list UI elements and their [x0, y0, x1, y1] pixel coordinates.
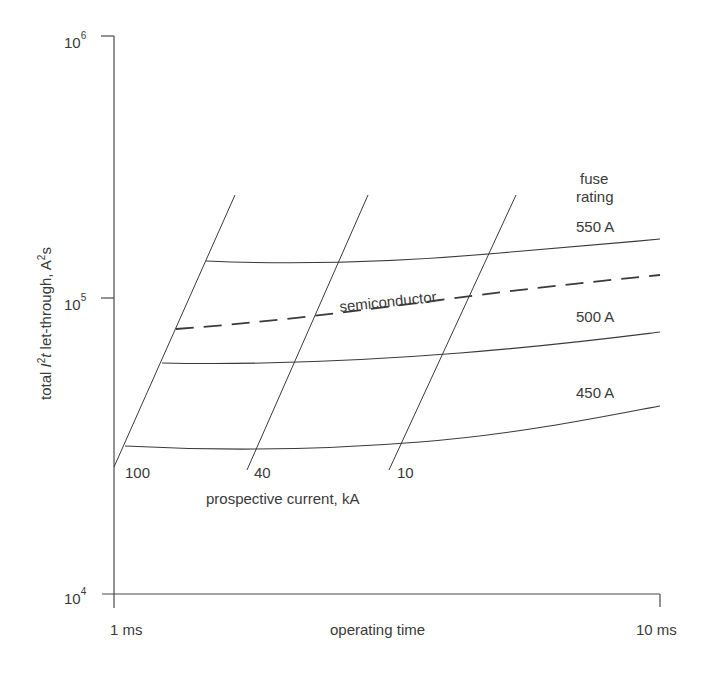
pc-label-10: 10 [397, 464, 414, 481]
label-500a: 500 A [576, 308, 614, 325]
pc-line-40 [247, 195, 368, 470]
pc-label-100: 100 [125, 464, 150, 481]
label-550a: 550 A [576, 218, 614, 235]
pc-title: prospective current, kA [206, 490, 359, 507]
curve-500a [162, 332, 660, 364]
curve-550a [206, 239, 660, 263]
fuse-i2t-chart: 106 105 104 total I2t let-through, A2s 1… [0, 0, 708, 674]
prospective-current-lines [114, 195, 516, 470]
y-axis-title: total I2t let-through, A2s [36, 247, 54, 400]
curve-450a [125, 406, 660, 449]
label-semiconductor: semiconductor [339, 288, 438, 315]
label-450a: 450 A [576, 384, 614, 401]
x-axis-title: operating time [330, 621, 425, 638]
y-tick-label-1e4: 104 [64, 586, 87, 607]
x-tick-label-10ms: 10 ms [636, 621, 677, 638]
legend-title-line1: fuse [580, 170, 608, 187]
legend-title-line2: rating [576, 188, 614, 205]
pc-line-10 [389, 195, 516, 470]
y-tick-label-1e6: 106 [64, 30, 87, 51]
pc-line-100 [114, 195, 235, 467]
fuse-curves [125, 239, 660, 449]
pc-label-40: 40 [254, 464, 271, 481]
x-tick-label-1ms: 1 ms [110, 621, 143, 638]
y-tick-label-1e5: 105 [64, 292, 87, 313]
